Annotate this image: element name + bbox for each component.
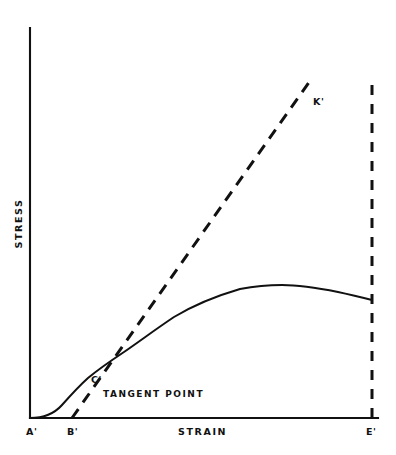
label-tangent-top-k-prime: K'	[313, 96, 324, 107]
y-axis-title: STRESS	[13, 194, 24, 254]
annotation-tangent-point-caption: TANGENT POINT	[103, 389, 204, 399]
label-tangent-foot-b-prime: B'	[67, 426, 78, 437]
tangent-line-dashed	[72, 78, 312, 418]
label-tangent-point-c-prime: C'	[91, 374, 102, 385]
chart-canvas	[0, 0, 396, 455]
label-origin-a-prime: A'	[26, 426, 37, 437]
label-end-point-e-prime: E'	[366, 426, 377, 437]
x-axis-title: STRAIN	[178, 426, 227, 437]
stress-strain-figure: STRESS STRAIN A' B' C' K' E' TANGENT POI…	[0, 0, 396, 455]
